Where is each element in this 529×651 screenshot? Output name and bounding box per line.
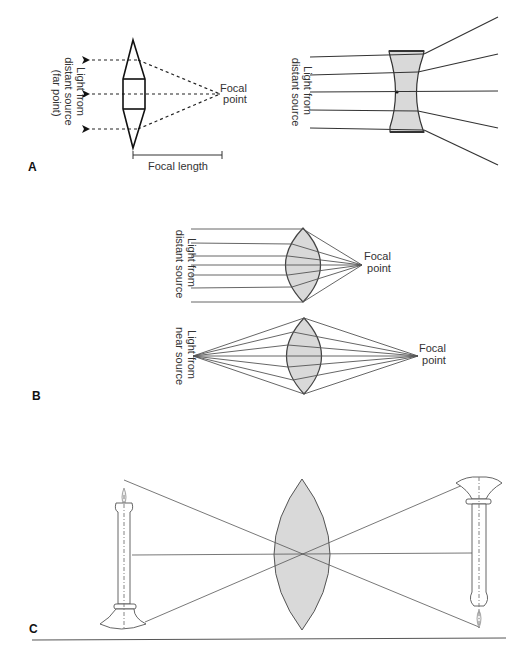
panel-a-right-diagram: Light from distant source	[290, 17, 498, 165]
panel-b-bottom-diagram: Light from near source Focal point	[174, 318, 449, 394]
focal-point-label: Focal point	[419, 342, 449, 366]
source-label: Light from distant source (far point)	[51, 57, 87, 129]
panel-a-left-diagram: Light from distant source (far point) Fo…	[51, 40, 250, 172]
panel-b-top-diagram: Light from distant source Focal point	[174, 228, 394, 302]
focal-point-label: Focal point	[220, 82, 250, 105]
candle-object	[100, 488, 146, 630]
panel-c-diagram	[32, 477, 506, 640]
candle-image	[456, 477, 502, 628]
optics-figure: Light from distant source (far point) Fo…	[0, 0, 529, 651]
light-rays	[92, 60, 220, 129]
panel-label-c: C	[29, 622, 38, 636]
light-rays	[191, 229, 362, 302]
panel-label-a: A	[28, 160, 37, 174]
light-rays	[310, 17, 498, 165]
focal-point-label: Focal point	[364, 250, 394, 274]
divider-line	[32, 638, 506, 640]
focal-length-label: Focal length	[148, 160, 208, 172]
panel-label-b: B	[32, 389, 41, 403]
focal-length-bar	[133, 151, 222, 159]
